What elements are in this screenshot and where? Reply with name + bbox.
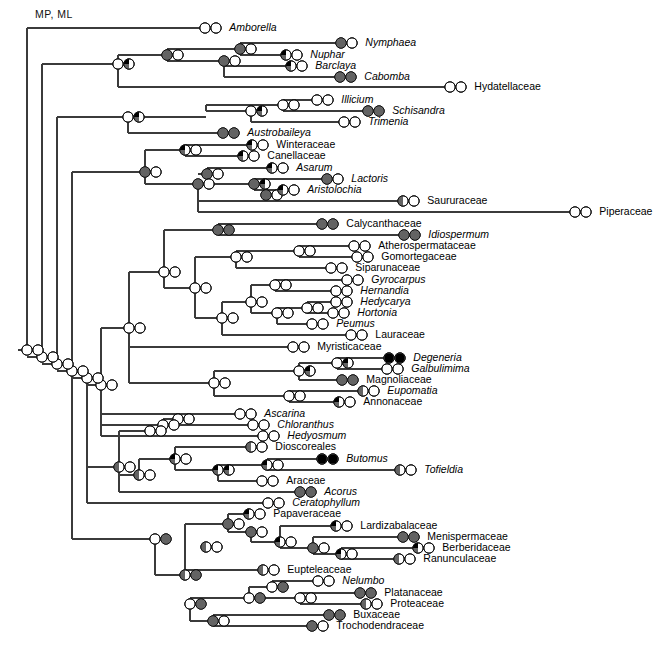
tip-ml-circle xyxy=(409,196,419,206)
tip-ml-circle xyxy=(278,163,288,173)
tip-ml-circle xyxy=(366,588,376,598)
circle-wedge xyxy=(258,565,263,575)
node-mp-circle xyxy=(113,59,123,69)
circle-wedge xyxy=(394,554,399,564)
node-pie-pair xyxy=(140,167,161,177)
tip-mp-circle xyxy=(281,50,291,60)
tip-mp-circle xyxy=(235,409,245,419)
node-ml-circle xyxy=(313,303,323,313)
tip-pie-pair xyxy=(317,219,338,229)
node-pie-pair xyxy=(145,426,166,436)
cladogram-canvas: AmborellaNymphaeaNupharBarclayaCabombaHy… xyxy=(0,0,668,652)
node-mp-circle xyxy=(262,460,272,470)
tip-mp-circle xyxy=(238,151,248,161)
tip-mp-circle xyxy=(257,476,267,486)
tip-mp-circle xyxy=(286,61,296,71)
node-mp-circle xyxy=(294,246,304,256)
node-pie-pair xyxy=(193,179,214,189)
tip-label: Papaveraceae xyxy=(273,507,341,519)
tip-ml-circle xyxy=(297,61,307,71)
tip-ml-circle xyxy=(324,576,334,586)
tip-pie-pair xyxy=(335,72,356,82)
node-pie-pair xyxy=(278,100,299,110)
circle-wedge xyxy=(246,442,251,452)
node-ml-circle xyxy=(343,358,353,368)
node-ml-circle xyxy=(161,534,171,544)
tip-pie-pair xyxy=(384,353,405,363)
node-mp-circle xyxy=(284,391,294,401)
node-mp-circle xyxy=(332,358,342,368)
tip-pie-pair xyxy=(247,140,268,150)
node-mp-circle xyxy=(272,308,282,318)
tip-label: Annonaceae xyxy=(363,395,422,407)
tip-label: Austrobaileya xyxy=(246,126,311,138)
tip-label: Illicium xyxy=(341,93,373,105)
tip-ml-circle xyxy=(357,330,367,340)
node-mp-circle xyxy=(124,323,134,333)
node-mp-circle xyxy=(201,542,211,552)
tip-pie-pair xyxy=(312,95,333,105)
node-mp-circle xyxy=(213,225,223,235)
node-pie-pair xyxy=(185,599,206,609)
tip-mp-circle xyxy=(317,219,327,229)
tip-ml-circle xyxy=(409,532,419,542)
node-pie-pair xyxy=(170,454,191,464)
tip-label: Lardizabalaceae xyxy=(360,519,437,531)
tip-ml-circle xyxy=(229,128,239,138)
node-mp-circle xyxy=(294,366,304,376)
tip-label: Canellaceae xyxy=(267,149,326,161)
circle-wedge xyxy=(395,465,400,475)
tip-mp-circle xyxy=(326,263,336,273)
node-pie-pair xyxy=(209,378,230,388)
node-ml-circle xyxy=(107,380,117,390)
node-ml-circle xyxy=(145,470,155,480)
tip-label: Trimenia xyxy=(368,115,408,127)
node-pie-pair xyxy=(124,323,145,333)
tip-ml-circle xyxy=(360,241,370,251)
tip-pie-pair xyxy=(445,82,466,92)
node-mp-circle xyxy=(246,527,256,537)
node-pie-pair xyxy=(275,537,296,547)
tip-ml-circle xyxy=(318,621,328,631)
node-ml-circle xyxy=(230,56,240,66)
tip-mp-circle xyxy=(313,576,323,586)
tip-pie-pair xyxy=(394,554,415,564)
node-pie-pair xyxy=(213,225,234,235)
node-mp-circle xyxy=(190,283,200,293)
tip-ml-circle xyxy=(249,151,259,161)
node-mp-circle xyxy=(170,454,180,464)
node-mp-circle xyxy=(193,179,203,189)
tip-mp-circle xyxy=(334,397,344,407)
node-pie-pair xyxy=(213,465,234,475)
circle-wedge xyxy=(358,386,363,396)
tip-mp-circle xyxy=(349,241,359,251)
tip-pie-pair xyxy=(336,38,357,48)
node-pie-pair xyxy=(262,460,283,470)
node-mp-circle xyxy=(308,543,318,553)
node-pie-pair xyxy=(308,543,329,553)
circle-wedge xyxy=(398,196,403,206)
node-ml-circle xyxy=(281,280,291,290)
tip-pie-pair xyxy=(398,196,419,206)
tip-pie-pair xyxy=(317,454,338,464)
node-pie-pair xyxy=(231,252,252,262)
node-ml-circle xyxy=(224,225,234,235)
node-ml-circle xyxy=(305,246,315,256)
node-pie-pair xyxy=(246,106,267,116)
tip-ml-circle xyxy=(292,50,302,60)
node-pie-pair xyxy=(134,470,155,480)
tip-ml-circle xyxy=(211,23,221,33)
tip-ml-circle xyxy=(348,375,358,385)
node-mp-circle xyxy=(246,297,256,307)
tip-label: Saururaceae xyxy=(427,194,487,206)
tip-label: Lauraceae xyxy=(375,328,425,340)
node-ml-circle xyxy=(134,112,144,122)
node-ml-circle xyxy=(273,460,283,470)
tip-mp-circle xyxy=(307,319,317,329)
tip-pie-pair xyxy=(331,286,352,296)
node-pie-pair xyxy=(217,313,238,323)
tip-mp-circle xyxy=(263,498,273,508)
tip-ml-circle xyxy=(323,95,333,105)
tip-label: Myristicaceae xyxy=(317,340,381,352)
node-mp-circle xyxy=(217,313,227,323)
